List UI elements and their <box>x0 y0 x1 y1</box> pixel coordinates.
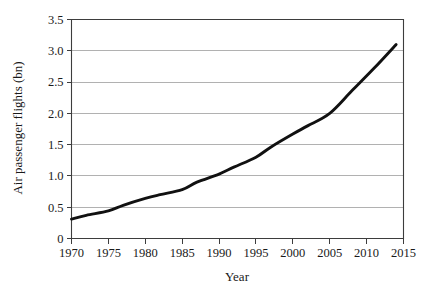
x-tick-label: 2000 <box>280 246 305 260</box>
x-tick-label: 1995 <box>243 246 268 260</box>
x-axis-ticks <box>72 239 404 244</box>
chart-figure: 00.51.01.52.02.53.03.5 19701975198019851… <box>0 0 432 293</box>
y-tick-label: 3.0 <box>48 44 64 58</box>
y-tick-label: 1.0 <box>48 169 64 183</box>
y-tick-label: 1.5 <box>48 138 64 152</box>
line-chart: 00.51.01.52.02.53.03.5 19701975198019851… <box>0 0 432 293</box>
grid-lines <box>72 51 404 207</box>
x-tick-label: 2005 <box>317 246 342 260</box>
x-tick-label: 1985 <box>170 246 195 260</box>
y-axis-ticks <box>67 20 72 239</box>
x-axis-tick-labels: 1970197519801985199019952000200520102015 <box>59 246 416 260</box>
data-series-line <box>72 45 397 220</box>
x-tick-label: 2015 <box>391 246 416 260</box>
y-tick-label: 2.5 <box>48 75 64 89</box>
y-tick-label: 2.0 <box>48 107 64 121</box>
x-axis-title: Year <box>225 269 250 284</box>
x-tick-label: 1970 <box>59 246 84 260</box>
y-tick-label: 0.5 <box>48 201 64 215</box>
y-axis-tick-labels: 00.51.01.52.02.53.03.5 <box>48 13 64 246</box>
x-tick-label: 2010 <box>354 246 379 260</box>
x-tick-label: 1975 <box>96 246 121 260</box>
x-tick-label: 1980 <box>133 246 158 260</box>
y-axis-title: Air passenger flights (bn) <box>10 61 25 194</box>
x-tick-label: 1990 <box>207 246 232 260</box>
y-tick-label: 0 <box>57 232 63 246</box>
y-tick-label: 3.5 <box>48 13 64 27</box>
